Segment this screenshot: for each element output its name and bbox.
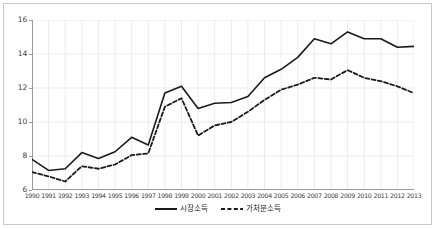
plot-area bbox=[32, 20, 414, 190]
x-axis-tick-label: 2013 bbox=[403, 192, 425, 200]
y-axis-tick-label: 14 bbox=[9, 50, 27, 58]
y-axis-tick-mark bbox=[29, 156, 32, 157]
y-axis-tick-mark bbox=[29, 54, 32, 55]
y-axis-tick-label: 8 bbox=[9, 152, 27, 160]
series-line-2 bbox=[32, 70, 414, 181]
y-axis-tick-label: 10 bbox=[9, 118, 27, 126]
y-axis-tick-mark bbox=[29, 122, 32, 123]
line-chart-svg bbox=[32, 20, 414, 190]
y-axis-tick-mark bbox=[29, 190, 32, 191]
y-axis-tick-mark bbox=[29, 88, 32, 89]
legend-item-1: 시장소득 bbox=[155, 204, 208, 213]
legend-label: 시장소득 bbox=[180, 204, 208, 213]
chart-screenshot: 6810121416 19901991199219931994199519961… bbox=[0, 0, 435, 228]
chart-outer-border: 6810121416 19901991199219931994199519961… bbox=[3, 3, 432, 225]
legend-item-2: 가처분소득 bbox=[221, 204, 281, 213]
legend-label: 가처분소득 bbox=[246, 204, 281, 213]
chart-legend: 시장소득가처분소득 bbox=[4, 204, 431, 213]
series-line-1 bbox=[32, 32, 414, 171]
y-axis-tick-label: 12 bbox=[9, 84, 27, 92]
y-axis-tick-label: 16 bbox=[9, 16, 27, 24]
legend-line-swatch bbox=[155, 205, 177, 213]
y-axis-tick-mark bbox=[29, 20, 32, 21]
legend-line-swatch bbox=[221, 205, 243, 213]
